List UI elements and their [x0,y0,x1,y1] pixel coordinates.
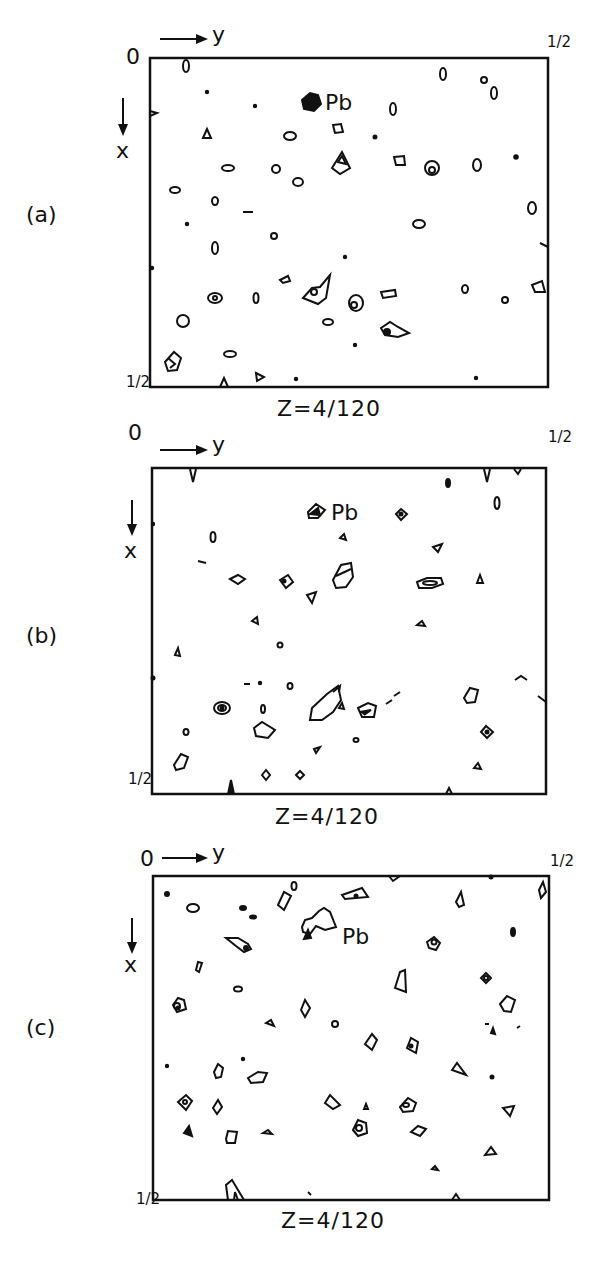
y-end-label-a: 1/2 [547,35,571,50]
y-axis-label-a: y [212,24,225,46]
panel-label-b: (b) [26,623,57,648]
atom-label-pb-a: Pb [325,92,352,114]
x-end-label-c: 1/2 [136,1192,160,1207]
atom-label-pb-c: Pb [342,926,369,948]
panel-b: (b) 0 y x 1/2 1/2 Pb Z=4/120 [0,410,600,840]
x-axis-label-b: x [124,540,137,562]
section-label-c: Z=4/120 [281,1208,385,1233]
panel-label-a: (a) [26,202,57,227]
contour-map-a [0,0,600,430]
origin-label-b: 0 [128,422,142,444]
y-end-label-b: 1/2 [548,430,572,445]
atom-label-pb-b: Pb [331,502,358,524]
origin-label-c: 0 [140,848,154,870]
y-axis-label-b: y [212,434,225,456]
x-end-label-b: 1/2 [128,772,152,787]
contour-map-b [0,410,600,840]
x-end-label-a: 1/2 [126,375,150,390]
panel-c: (c) 0 y x 1/2 1/2 Pb Z=4/120 [0,820,600,1261]
origin-label-a: 0 [126,46,140,68]
contour-map-c [0,820,600,1261]
y-axis-label-c: y [212,842,225,864]
y-end-label-c: 1/2 [550,854,574,869]
panel-label-c: (c) [26,1015,55,1040]
x-axis-label-c: x [124,954,137,976]
panel-a: (a) 0 y x 1/2 1/2 Pb Z=4/120 [0,0,600,430]
x-axis-label-a: x [116,140,129,162]
